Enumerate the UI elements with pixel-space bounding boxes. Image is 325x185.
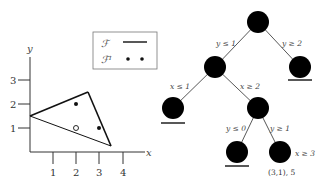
tree-node-x-ge-2[interactable] <box>247 97 269 119</box>
edge-label-y-le-0: y ≤ 0 <box>225 124 246 133</box>
tree-node-y-le-0[interactable] <box>226 141 248 163</box>
legend: ℱ ℱᴵ <box>93 32 157 69</box>
x-tick-label-4: 4 <box>120 167 126 178</box>
x-tick-label-2: 2 <box>73 167 79 178</box>
x-tick-label-1: 1 <box>50 167 56 178</box>
leaf-annotation-x-ge-3: x ≥ 3 <box>295 149 315 158</box>
y-tick-label-1: 1 <box>10 123 16 134</box>
integer-point-2-2 <box>74 102 78 106</box>
tree-node-y-ge-1[interactable] <box>269 141 291 163</box>
x-tick-label-3: 3 <box>96 167 102 178</box>
y-tick-label-2: 2 <box>10 99 16 110</box>
region-edge-right <box>88 92 111 146</box>
y-tick-label-3: 3 <box>10 75 16 86</box>
region-edge-bottom <box>30 116 111 146</box>
branch-tree: y ≤ 1 y ≥ 2 x ≤ 1 x ≥ 2 y ≤ 0 y ≥ 1 x ≥ … <box>161 11 315 177</box>
legend-dot-2 <box>140 57 144 61</box>
region-edge-top <box>30 92 88 116</box>
y-axis-label: y <box>26 43 33 54</box>
edge-label-y-ge-1: y ≥ 1 <box>269 124 290 133</box>
edge-label-y-le-1: y ≤ 1 <box>215 39 236 48</box>
solution-label: (3,1), 5 <box>268 168 296 177</box>
legend-label-FI: ℱᴵ <box>101 54 112 65</box>
legend-dot-1 <box>126 57 130 61</box>
x-axis-label: x <box>146 147 152 158</box>
tree-node-x-le-1[interactable] <box>162 97 184 119</box>
edge-label-x-le-1: x ≤ 1 <box>170 82 190 91</box>
integer-point-3-1 <box>97 126 101 130</box>
lp-point-2-1 <box>74 126 79 131</box>
edge-label-x-ge-2: x ≥ 2 <box>240 82 260 91</box>
tree-node-y-ge-2[interactable] <box>289 56 311 78</box>
tree-node-y-le-1[interactable] <box>204 56 226 78</box>
branch-and-bound-diagram: y x 3 2 1 1 2 3 4 ℱ ℱᴵ <box>0 0 325 185</box>
tree-node-root[interactable] <box>247 11 269 33</box>
edge-label-y-ge-2: y ≥ 2 <box>281 39 302 48</box>
